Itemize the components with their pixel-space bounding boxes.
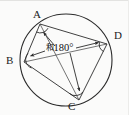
vertex-label-c: C xyxy=(68,101,75,112)
side-cd xyxy=(79,44,107,100)
geometry-canvas xyxy=(0,0,129,115)
angle-sum-annotation: 和180° xyxy=(46,43,73,54)
vertex-label-b: B xyxy=(6,55,13,66)
annotation-arrow-to-d xyxy=(76,43,99,49)
angle-arc-d xyxy=(99,42,103,51)
annotation-degree-symbol: ° xyxy=(69,42,73,53)
vertex-label-a: A xyxy=(33,9,41,20)
geometry-figure: A B C D 和180° xyxy=(0,0,129,115)
vertex-label-d: D xyxy=(114,30,122,41)
annotation-arrow-to-b xyxy=(31,51,46,56)
side-da xyxy=(40,24,107,44)
annotation-prefix-text: 和 xyxy=(46,43,54,52)
annotation-value-text: 180 xyxy=(54,42,70,53)
